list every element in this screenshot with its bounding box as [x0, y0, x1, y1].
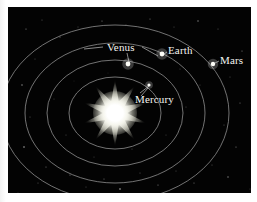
sun-starburst: [83, 79, 148, 147]
star-dot: [66, 135, 67, 136]
star-dot: [227, 176, 228, 177]
earth-label: Earth: [168, 44, 193, 56]
venus-dot: [126, 62, 131, 67]
earth-dot: [160, 52, 165, 57]
star-dot: [224, 125, 225, 126]
star-dot: [25, 28, 26, 29]
mercury-label: Mercury: [135, 93, 174, 105]
star-dot: [218, 29, 219, 30]
star-dot: [197, 20, 198, 21]
star-dot: [35, 59, 36, 60]
solar-system-figure: MercuryVenusEarthMars Solar System Inner…: [0, 0, 257, 202]
mars-dot: [211, 62, 215, 66]
star-dot: [250, 189, 251, 190]
star-dot: [239, 102, 240, 103]
orbit-diagram-svg: MercuryVenusEarthMars: [8, 7, 251, 193]
night-sky-panel: MercuryVenusEarthMars: [8, 7, 251, 193]
star-dot: [186, 107, 187, 108]
star-dot: [103, 178, 104, 179]
star-dot: [42, 20, 43, 21]
star-dot: [18, 193, 19, 194]
star-dot: [38, 183, 39, 184]
star-dot: [45, 166, 46, 167]
star-dot: [108, 73, 109, 74]
star-dot: [230, 77, 231, 78]
star-dot: [101, 20, 102, 21]
star-dot: [140, 173, 141, 174]
star-dot: [174, 27, 175, 28]
venus-label: Venus: [107, 41, 135, 53]
star-dot: [21, 84, 22, 85]
star-dot: [94, 157, 95, 158]
star-dot: [86, 187, 87, 188]
star-dot: [212, 165, 213, 166]
star-dot: [23, 146, 25, 148]
star-dot: [157, 184, 158, 185]
star-dot: [78, 27, 79, 28]
sun-core-disc: [104, 102, 126, 124]
star-dot: [176, 171, 177, 172]
mars-label: Mars: [220, 54, 243, 66]
star-dot: [193, 182, 194, 183]
venus-leader-left: [84, 47, 103, 49]
star-dot: [59, 36, 60, 37]
star-dot: [180, 69, 181, 70]
star-dot: [54, 99, 55, 100]
star-dot: [235, 146, 236, 147]
star-dot: [200, 85, 201, 86]
star-dot: [30, 117, 31, 118]
star-dot: [149, 18, 150, 19]
star-dot: [166, 135, 167, 136]
star-dot: [69, 174, 70, 175]
star-dot: [74, 81, 75, 82]
star-dot: [119, 188, 121, 190]
star-dot: [132, 149, 133, 150]
mercury-dot: [147, 83, 150, 86]
star-dot: [241, 50, 242, 51]
